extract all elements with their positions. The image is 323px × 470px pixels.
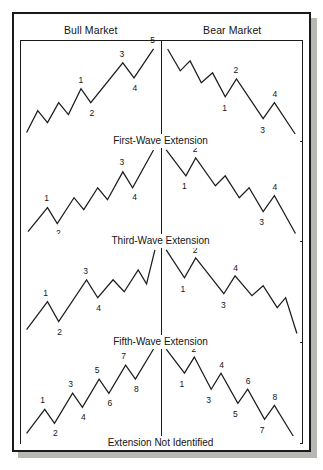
wave-polyline (167, 49, 295, 135)
column-header-bear: Bear Market (162, 20, 304, 40)
figure-inner: Bull Market Bear Market 12345First-Wave … (20, 20, 303, 444)
wave-polyline (166, 149, 295, 233)
wave-path-svg (162, 142, 303, 242)
wave-panel-first-wave-bear: 12345 (162, 41, 303, 142)
wave-panel-third-wave-bear: 12345 (162, 142, 303, 243)
wave-panel-fifth-wave-bear: 12345 (162, 242, 303, 343)
wave-polyline (27, 49, 154, 133)
wave-panel-fifth-wave-bull: 12345Fifth-Wave Extension (21, 242, 162, 343)
column-header-bull: Bull Market (20, 20, 162, 40)
wave-panel-grid: 12345First-Wave Extension1234512345Third… (20, 40, 303, 444)
wave-polyline (28, 149, 154, 231)
wave-path-svg (162, 343, 303, 444)
wave-polyline (166, 349, 294, 437)
wave-panel-third-wave-bull: 12345Third-Wave Extension (21, 142, 162, 243)
wave-polyline (27, 250, 155, 330)
wave-panel-not-identified-bear: 123456789 (162, 343, 303, 444)
wave-path-svg (21, 343, 161, 444)
wave-path-svg (21, 142, 161, 242)
column-header-bear-label: Bear Market (203, 24, 261, 36)
wave-path-svg (162, 41, 303, 141)
column-header-bull-label: Bull Market (64, 24, 118, 36)
wave-panel-not-identified-bull: 123456789Extension Not Identified (21, 343, 162, 444)
wave-panel-first-wave-bull: 12345First-Wave Extension (21, 41, 162, 142)
wave-path-svg (162, 242, 303, 342)
wave-path-svg (21, 242, 161, 342)
column-headers: Bull Market Bear Market (20, 20, 303, 40)
figure-plate: Bull Market Bear Market 12345First-Wave … (12, 12, 311, 452)
wave-path-svg (21, 41, 161, 141)
wave-polyline (27, 349, 154, 433)
wave-polyline (166, 250, 297, 334)
